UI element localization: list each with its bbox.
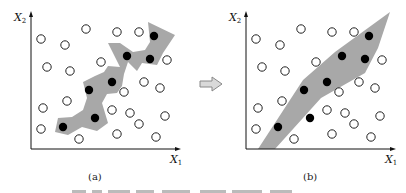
panel-caption-a: (a) <box>88 171 102 182</box>
filled-point <box>150 32 158 40</box>
hollow-point <box>254 104 262 112</box>
hollow-point <box>371 84 379 92</box>
x-axis-label-a: X1 <box>169 153 182 167</box>
filled-point <box>274 123 282 131</box>
hollow-point <box>140 78 148 86</box>
filled-point <box>59 123 67 131</box>
filled-point <box>365 32 373 40</box>
x-axis-arrowhead-a <box>175 147 181 151</box>
hollow-point <box>152 133 160 141</box>
x-axis-label-b: X1 <box>384 153 397 167</box>
hollow-point <box>120 88 128 96</box>
hollow-point <box>312 58 320 66</box>
y-axis-label-b: X2 <box>228 11 241 25</box>
hollow-point <box>63 97 71 105</box>
hollow-point <box>37 35 45 43</box>
hollow-point <box>341 109 349 117</box>
filled-point <box>123 52 131 60</box>
hollow-point <box>323 106 331 114</box>
hollow-point <box>37 125 45 133</box>
hollow-point <box>376 112 384 120</box>
hollow-point <box>163 56 171 64</box>
transform-arrow-icon <box>200 77 222 91</box>
hollow-point <box>355 78 363 86</box>
hollow-point <box>66 67 74 75</box>
hollow-point <box>97 58 105 66</box>
hollow-point <box>113 130 121 138</box>
hollow-point <box>350 120 358 128</box>
filled-point <box>85 86 93 94</box>
hollow-point <box>328 130 336 138</box>
filled-point <box>361 55 369 63</box>
hollow-point <box>328 28 336 36</box>
jagged-region-a <box>55 22 175 135</box>
hollow-point <box>82 25 90 33</box>
hollow-point <box>135 28 143 36</box>
filled-point <box>91 114 99 122</box>
truncated-figure-caption <box>72 190 292 193</box>
hollow-point <box>252 125 260 133</box>
hollow-point <box>335 88 343 96</box>
hollow-point <box>113 28 121 36</box>
hollow-point <box>367 133 375 141</box>
hollow-point <box>281 67 289 75</box>
filled-point <box>323 78 331 86</box>
hollow-point <box>39 104 47 112</box>
hollow-point <box>278 97 286 105</box>
hollow-point <box>276 41 284 49</box>
filled-point <box>338 52 346 60</box>
hollow-point <box>61 41 69 49</box>
y-axis-arrowhead-b <box>244 11 248 17</box>
y-axis-arrowhead-a <box>29 11 33 17</box>
hollow-point <box>126 109 134 117</box>
y-axis-label-a: X2 <box>13 11 26 25</box>
filled-point <box>146 55 154 63</box>
hollow-point <box>252 35 260 43</box>
panel-a: X2 X1 (a) <box>13 11 182 182</box>
diagram-canvas: X2 X1 (a) X2 X1 (b) <box>0 0 406 193</box>
hollow-point <box>378 56 386 64</box>
hollow-point <box>108 106 116 114</box>
hollow-point <box>135 120 143 128</box>
filled-point <box>306 114 314 122</box>
hollow-point <box>75 135 83 143</box>
hollow-point <box>156 84 164 92</box>
panel-b: X2 X1 (b) <box>228 11 397 182</box>
hollow-point <box>290 135 298 143</box>
panel-caption-b: (b) <box>303 171 317 182</box>
hollow-point <box>161 112 169 120</box>
filled-point <box>108 78 116 86</box>
hollow-point <box>258 63 266 71</box>
x-axis-arrowhead-b <box>390 147 396 151</box>
hollow-point <box>43 63 51 71</box>
hollow-point <box>297 25 305 33</box>
filled-point <box>300 86 308 94</box>
hollow-point <box>350 28 358 36</box>
